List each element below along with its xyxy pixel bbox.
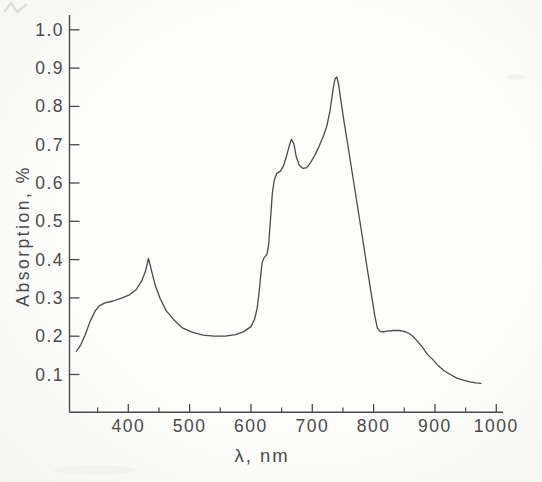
photo-smudge [53, 465, 137, 475]
y-axis-title: Absorption, % [13, 165, 33, 306]
x-axis-title: λ, nm [234, 445, 289, 466]
film-scratch-mark [5, 3, 26, 12]
y-tick-label: 0.7 [35, 135, 64, 155]
x-tick-label: 500 [173, 416, 207, 436]
photo-artifacts [5, 3, 525, 475]
y-tick-label: 0.8 [35, 96, 64, 116]
spectrum-curve [76, 77, 481, 383]
y-tick-label: 0.9 [35, 58, 64, 78]
y-tick-label: 0.2 [35, 326, 64, 346]
y-tick-label: 0.1 [35, 365, 64, 385]
x-tick-label: 1000 [474, 416, 519, 436]
y-tick-label: 0.5 [35, 211, 64, 231]
x-tick-label: 700 [295, 416, 329, 436]
photo-smudge [507, 74, 525, 80]
x-tick-label: 800 [357, 416, 391, 436]
axes [70, 15, 504, 412]
x-tick-label: 400 [111, 416, 145, 436]
tick-labels: 1.00.90.80.70.60.50.40.30.20.14005006007… [35, 20, 519, 436]
y-tick-label: 1.0 [35, 20, 64, 40]
y-tick-label: 0.3 [35, 288, 64, 308]
x-tick-label: 600 [234, 416, 268, 436]
y-tick-label: 0.4 [35, 250, 64, 270]
y-tick-label: 0.6 [35, 173, 64, 193]
spectrum-figure: 1.00.90.80.70.60.50.40.30.20.14005006007… [0, 0, 542, 482]
absorption-spectrum-chart: 1.00.90.80.70.60.50.40.30.20.14005006007… [0, 0, 542, 482]
x-tick-label: 900 [418, 416, 452, 436]
axis-ticks [70, 30, 496, 413]
